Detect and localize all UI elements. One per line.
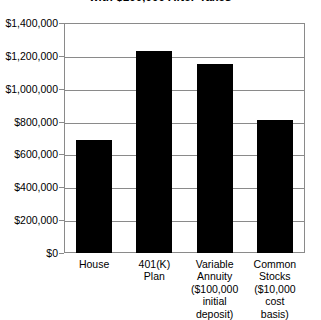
x-axis-label-line: ($10,000 — [245, 283, 305, 295]
y-axis-label: $1,200,000 — [0, 51, 58, 62]
x-axis-label-line: 401(K) — [124, 258, 184, 270]
x-axis-label-line: basis) — [245, 308, 305, 320]
y-axis-label: $200,000 — [0, 215, 58, 226]
gridline — [65, 57, 304, 58]
x-axis-label-line: Annuity — [185, 270, 245, 282]
bar — [136, 51, 172, 253]
y-axis-label: $1,000,000 — [0, 84, 58, 95]
y-axis-tick — [59, 253, 64, 254]
x-axis-label-line: Common — [245, 258, 305, 270]
x-axis-label-line: Plan — [124, 270, 184, 282]
x-axis-label-line: Stocks — [245, 270, 305, 282]
y-axis-label: $0 — [0, 248, 58, 259]
y-axis-tick — [59, 154, 64, 155]
x-axis-label-line: Variable — [185, 258, 245, 270]
y-axis-tick — [59, 23, 64, 24]
bar — [197, 64, 233, 253]
y-axis-label: $1,400,000 — [0, 18, 58, 29]
y-axis-label: $600,000 — [0, 149, 58, 160]
x-axis-label: CommonStocks($10,000costbasis) — [245, 258, 305, 320]
gridline — [65, 90, 304, 91]
x-axis-label: House — [64, 258, 124, 270]
x-axis-label-line: deposit) — [185, 308, 245, 320]
chart-title: with $100,000 After-Taxes — [0, 0, 321, 3]
bar — [257, 120, 293, 253]
x-axis-label: VariableAnnuity($100,000initialdeposit) — [185, 258, 245, 320]
y-axis-label: $800,000 — [0, 117, 58, 128]
y-axis-tick — [59, 187, 64, 188]
x-axis-label: 401(K)Plan — [124, 258, 184, 283]
bar — [76, 140, 112, 253]
y-axis-tick — [59, 56, 64, 57]
x-axis-label-line: ($100,000 — [185, 283, 245, 295]
y-axis-tick — [59, 89, 64, 90]
x-axis-label-line: initial — [185, 295, 245, 307]
bar-chart-figure: with $100,000 After-Taxes $1,400,000$1,2… — [0, 0, 321, 320]
y-axis-tick — [59, 220, 64, 221]
x-axis-label-line: House — [64, 258, 124, 270]
y-axis-tick — [59, 122, 64, 123]
y-axis-label: $400,000 — [0, 182, 58, 193]
x-axis-label-line: cost — [245, 295, 305, 307]
